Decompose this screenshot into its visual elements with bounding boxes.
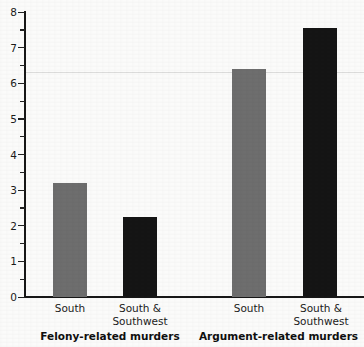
bar-felony-south [53, 183, 87, 297]
y-tick-7 [18, 47, 25, 48]
y-axis-label-3: 3 [1, 185, 17, 196]
x-label-felony-south-southwest: South & Southwest [100, 302, 180, 327]
y-axis-label-6: 6 [1, 78, 17, 89]
x-label-argument-south-southwest: South & Southwest [280, 302, 362, 327]
y-tick-4 [18, 154, 25, 155]
y-tick-3 [18, 190, 25, 191]
bar-argument-south [232, 69, 266, 297]
y-tick-8 [18, 12, 25, 13]
y-axis-label-4: 4 [1, 150, 17, 161]
y-axis-label-2: 2 [1, 221, 17, 232]
x-label-felony-south: South [30, 302, 110, 315]
group-title-argument: Argument-related murders [193, 330, 364, 342]
y-tick-2 [18, 225, 25, 226]
bar-chart: 8 7 6 5 4 3 2 1 0 South South & Southwes… [0, 0, 364, 347]
x-label-argument-south: South [209, 302, 289, 315]
y-axis-label-1: 1 [1, 256, 17, 267]
plot-area [25, 12, 364, 297]
y-tick-1 [18, 261, 25, 262]
y-axis-label-7: 7 [1, 43, 17, 54]
y-tick-0 [18, 297, 25, 298]
bar-felony-south-southwest [123, 217, 157, 297]
group-title-felony: Felony-related murders [25, 330, 195, 342]
y-tick-6 [18, 83, 25, 84]
bar-argument-south-southwest [303, 28, 337, 297]
y-axis-label-0: 0 [1, 292, 17, 303]
y-axis-label-8: 8 [1, 7, 17, 18]
y-axis-label-5: 5 [1, 114, 17, 125]
y-tick-5 [18, 118, 25, 119]
